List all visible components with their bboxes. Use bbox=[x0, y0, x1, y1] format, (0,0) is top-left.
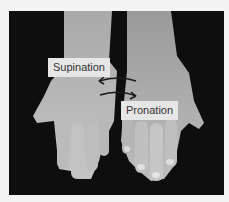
supination-label: Supination bbox=[48, 58, 110, 77]
pronation-label: Pronation bbox=[121, 101, 178, 120]
right-hand bbox=[121, 11, 204, 181]
hands-illustration bbox=[9, 11, 224, 195]
hands-photo: Supination Pronation bbox=[9, 11, 224, 195]
left-hand bbox=[33, 11, 117, 179]
